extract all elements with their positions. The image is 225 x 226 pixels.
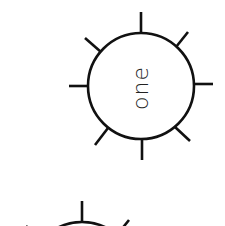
node-two-partial — [26, 201, 135, 226]
node-circle — [29, 222, 135, 226]
spike-top-right — [117, 220, 129, 226]
diagram-canvas: one — [0, 0, 225, 226]
spike-bottom-right — [175, 127, 190, 141]
node-label: one — [128, 66, 153, 110]
spike-top-right — [176, 32, 188, 47]
spike-bottom-left — [95, 128, 108, 145]
node-one: one — [69, 12, 213, 160]
spike-top-left — [85, 38, 101, 52]
